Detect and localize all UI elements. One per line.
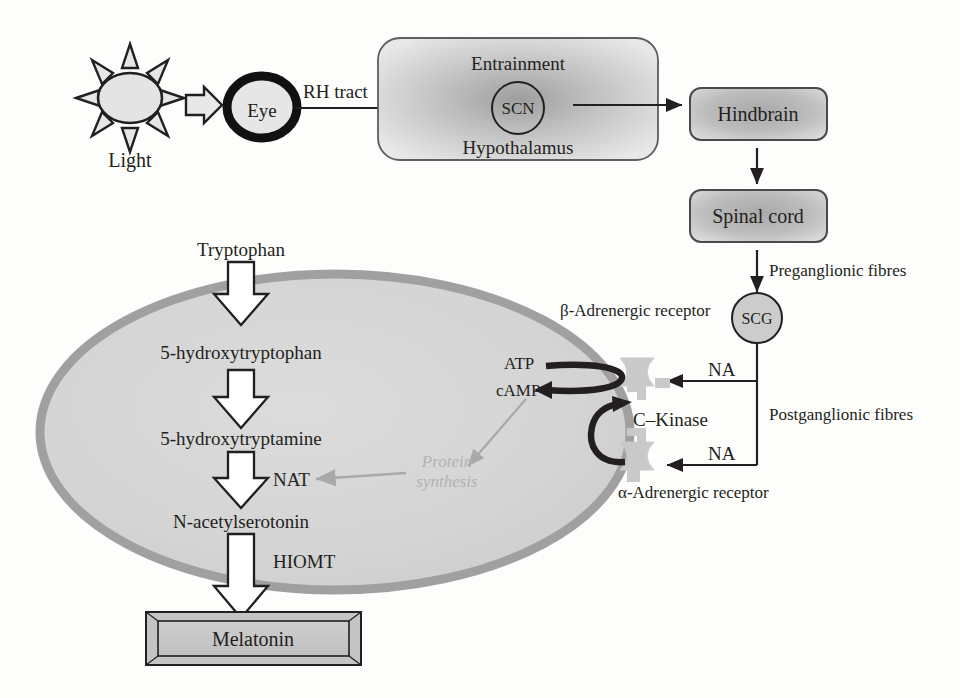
pineal-gland-cell xyxy=(40,274,630,590)
postganglionic-fibres-label: Postganglionic fibres xyxy=(769,406,913,423)
entrainment-label: Entrainment xyxy=(471,54,565,73)
atp-label: ATP xyxy=(504,355,534,372)
scn-label: SCN xyxy=(501,100,534,117)
alpha-adrenergic-receptor-label: α-Adrenergic receptor xyxy=(618,484,769,501)
protein-synthesis-label: Protein synthesis xyxy=(416,452,477,491)
na-beta-label: NA xyxy=(708,360,735,379)
protein-synthesis-line-2: synthesis xyxy=(416,472,477,492)
hypothalamus-label: Hypothalamus xyxy=(463,138,574,157)
hindbrain-label: Hindbrain xyxy=(717,104,798,124)
eye-label: Eye xyxy=(247,101,277,120)
diagram-canvas xyxy=(0,0,960,698)
spinal-cord-label: Spinal cord xyxy=(712,206,804,226)
beta-adrenergic-receptor-label: β-Adrenergic receptor xyxy=(560,302,710,319)
tryptophan-label: Tryptophan xyxy=(197,240,285,259)
sun-icon xyxy=(76,44,184,152)
camp-label: cAMP xyxy=(496,382,540,399)
light-to-eye-arrow xyxy=(186,87,222,123)
light-label: Light xyxy=(108,150,151,170)
nat-enzyme-label: NAT xyxy=(273,470,310,489)
n-acetylserotonin-label: N-acetylserotonin xyxy=(173,512,309,531)
na-alpha-label: NA xyxy=(708,444,735,463)
hydroxytryptophan-label: 5-hydroxytryptophan xyxy=(160,343,321,362)
hiomt-enzyme-label: HIOMT xyxy=(273,552,335,571)
beta-adrenergic-receptor xyxy=(620,358,670,400)
pineal-melatonin-pathway-diagram: Light Eye RH tract Entrainment SCN Hypot… xyxy=(0,0,960,698)
scg-label: SCG xyxy=(741,311,772,327)
protein-synthesis-line-1: Protein xyxy=(416,452,477,472)
rh-tract-label: RH tract xyxy=(303,82,368,101)
hydroxytryptamine-label: 5-hydroxytryptamine xyxy=(160,429,321,448)
melatonin-label: Melatonin xyxy=(212,629,294,649)
c-kinase-label: C–Kinase xyxy=(633,410,708,429)
preganglionic-fibres-label: Preganglionic fibres xyxy=(769,262,906,279)
